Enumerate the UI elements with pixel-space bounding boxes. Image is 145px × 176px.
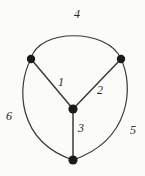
v-top-right: [117, 55, 125, 63]
edge-label-6: 6: [6, 110, 12, 122]
graph-canvas: [0, 0, 145, 176]
graph-edge-4: [31, 36, 121, 59]
graph-edge-1: [31, 59, 73, 109]
edge-label-1: 1: [58, 76, 64, 88]
edge-label-5: 5: [130, 124, 136, 136]
v-bottom: [68, 155, 77, 164]
graph-figure: 123456: [0, 0, 145, 176]
v-center: [68, 104, 77, 113]
v-top-left: [27, 55, 35, 63]
edge-label-3: 3: [78, 122, 84, 134]
graph-edge-6: [23, 59, 73, 160]
edge-label-2: 2: [97, 84, 103, 96]
edge-layer: [23, 36, 128, 160]
graph-edge-5: [73, 59, 127, 160]
edge-label-4: 4: [74, 8, 80, 20]
